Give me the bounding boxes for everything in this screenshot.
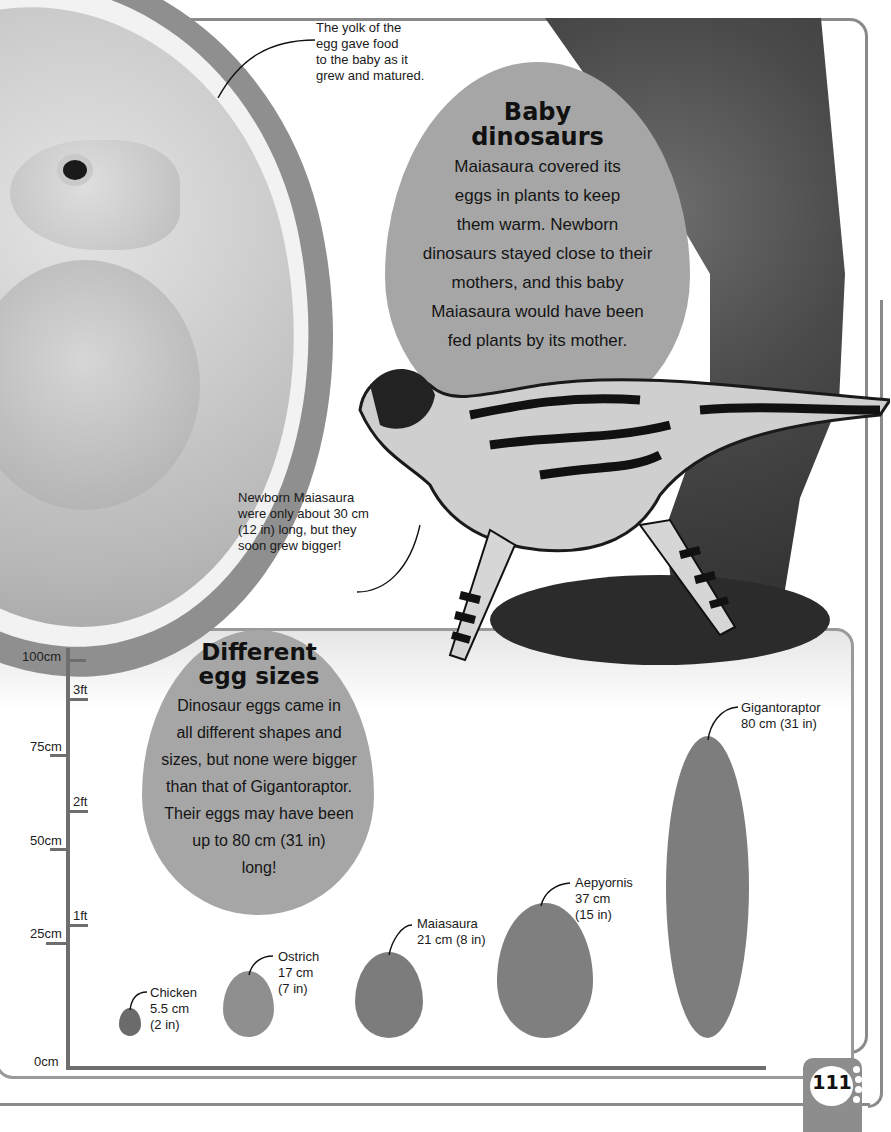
x-axis <box>66 1066 766 1070</box>
page-frame-bottom <box>0 1103 870 1106</box>
label-cm: 37 cm <box>575 891 633 907</box>
chicken-egg <box>119 1008 141 1036</box>
y-tick-label: 25cm <box>30 926 62 941</box>
footprint-toe-icon <box>855 1086 862 1093</box>
label-name: Gigantoraptor <box>741 700 821 716</box>
ostrich-label: Ostrich 17 cm (7 in) <box>278 949 319 997</box>
tick-100cm <box>66 659 86 662</box>
tick-50cm <box>50 848 68 851</box>
label-name: Maiasaura <box>417 916 486 932</box>
yolk-caption-line: to the baby as it <box>316 52 424 68</box>
body-line: Dinosaur eggs came in <box>125 692 393 719</box>
label-in: (2 in) <box>150 1017 197 1033</box>
chicken-label: Chicken 5.5 cm (2 in) <box>150 985 197 1033</box>
body-line: all different shapes and <box>125 719 393 746</box>
body-line: mothers, and this baby <box>380 268 695 297</box>
baby-maiasaura-image <box>340 355 890 670</box>
y-ft-label: 3ft <box>73 682 87 697</box>
yolk-caption-line: grew and matured. <box>316 68 424 84</box>
egg-sizes-body: Dinosaur eggs came in all different shap… <box>125 692 393 881</box>
body-line: eggs in plants to keep <box>380 181 695 210</box>
label-cm: 21 cm (8 in) <box>417 932 486 948</box>
body-line: Their eggs may have been <box>125 800 393 827</box>
baby-dinosaurs-section: Baby dinosaurs Maiasaura covered its egg… <box>380 100 695 355</box>
label-name: Aepyornis <box>575 875 633 891</box>
label-in: (15 in) <box>575 907 633 923</box>
y-ft-label: 1ft <box>73 908 87 923</box>
yolk-caption-line: The yolk of the <box>316 20 424 36</box>
title-line: egg sizes <box>125 664 393 688</box>
body-line: dinosaurs stayed close to their <box>380 239 695 268</box>
maiasaura-label: Maiasaura 21 cm (8 in) <box>417 916 486 948</box>
yolk-leader-line <box>200 18 320 98</box>
tick-1ft <box>68 924 88 927</box>
y-ft-label: 2ft <box>73 794 87 809</box>
yolk-caption: The yolk of the egg gave food to the bab… <box>316 20 424 84</box>
title-line: Different <box>125 640 393 664</box>
tick-25cm <box>46 942 68 945</box>
body-line: up to 80 cm (31 in) <box>125 827 393 854</box>
y-axis <box>66 648 70 1068</box>
label-in: (7 in) <box>278 981 319 997</box>
newborn-caption-line: (12 in) long, but they <box>238 522 369 538</box>
title-line: dinosaurs <box>380 125 695 150</box>
body-line: fed plants by its mother. <box>380 326 695 355</box>
egg-sizes-title: Different egg sizes <box>125 640 393 688</box>
body-line: them warm. Newborn <box>380 210 695 239</box>
body-line: sizes, but none were bigger <box>125 746 393 773</box>
y-tick-label: 100cm <box>22 649 61 664</box>
title-line: Baby <box>380 100 695 125</box>
tick-2ft <box>68 810 88 813</box>
baby-dinosaurs-title: Baby dinosaurs <box>380 100 695 150</box>
body-line: long! <box>125 854 393 881</box>
label-cm: 17 cm <box>278 965 319 981</box>
body-line: Maiasaura covered its <box>380 152 695 181</box>
body-line: than that of Gigantoraptor. <box>125 773 393 800</box>
embryo-head <box>10 140 180 250</box>
tick-3ft <box>68 698 88 701</box>
label-cm: 5.5 cm <box>150 1001 197 1017</box>
aepyornis-label: Aepyornis 37 cm (15 in) <box>575 875 633 923</box>
label-name: Chicken <box>150 985 197 1001</box>
newborn-caption-line: Newborn Maiasaura <box>238 490 369 506</box>
newborn-leader-line <box>355 520 425 600</box>
label-name: Ostrich <box>278 949 319 965</box>
footprint-toe-icon <box>855 1076 862 1083</box>
footprint-toe-icon <box>853 1096 860 1103</box>
newborn-caption-line: soon grew bigger! <box>238 538 369 554</box>
y-tick-label: 50cm <box>30 833 62 848</box>
page-number: 111 <box>808 1071 856 1093</box>
baby-dinosaurs-body: Maiasaura covered its eggs in plants to … <box>380 152 695 355</box>
label-cm: 80 cm (31 in) <box>741 716 821 732</box>
y-tick-label: 75cm <box>30 739 62 754</box>
gigantoraptor-egg <box>666 736 749 1038</box>
embryo-eye <box>63 160 87 180</box>
egg-sizes-section: Different egg sizes Dinosaur eggs came i… <box>125 640 393 881</box>
newborn-caption: Newborn Maiasaura were only about 30 cm … <box>238 490 369 554</box>
tick-75cm <box>50 754 68 757</box>
y-tick-label: 0cm <box>34 1054 59 1069</box>
yolk-caption-line: egg gave food <box>316 36 424 52</box>
newborn-caption-line: were only about 30 cm <box>238 506 369 522</box>
gigantoraptor-label: Gigantoraptor 80 cm (31 in) <box>741 700 821 732</box>
body-line: Maiasaura would have been <box>380 297 695 326</box>
